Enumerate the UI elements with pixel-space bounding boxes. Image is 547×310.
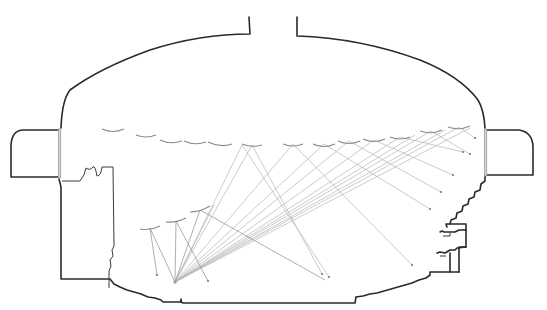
sound-source [173,280,177,284]
diagram-canvas [0,0,547,310]
rear-reflectors [140,206,210,230]
auditorium-section-diagram [0,0,547,310]
building-outline [11,17,533,303]
sound-rays [150,127,476,282]
ceiling-reflectors [102,126,470,147]
